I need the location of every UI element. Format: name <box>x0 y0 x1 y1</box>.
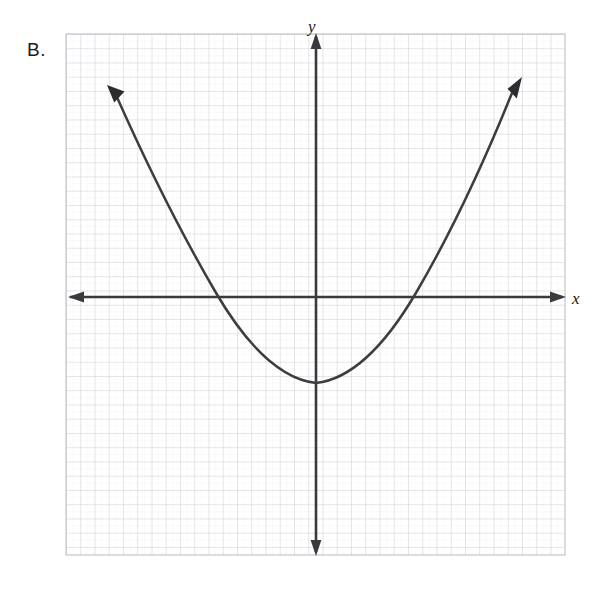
coordinate-plane: x y <box>0 0 603 589</box>
graph-figure: B. <box>0 0 603 589</box>
y-axis-label: y <box>306 17 316 36</box>
x-axis-label: x <box>571 289 580 308</box>
